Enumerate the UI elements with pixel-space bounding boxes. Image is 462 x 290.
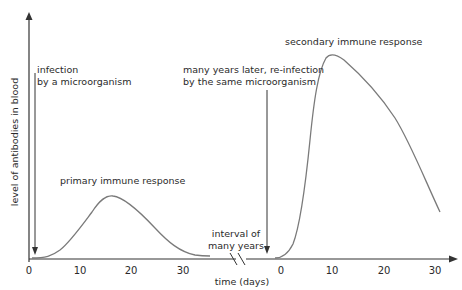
x-axis-label: time (days) — [215, 276, 269, 287]
tick-secondary-20: 20 — [378, 265, 391, 276]
primary-response-label: primary immune response — [60, 175, 186, 186]
secondary-response-label: secondary immune response — [285, 36, 423, 47]
tick-primary-0: 0 — [26, 265, 32, 276]
y-axis-arrow-icon — [26, 12, 33, 20]
axis-break-mark-2 — [238, 253, 245, 265]
tick-secondary-10: 10 — [326, 265, 339, 276]
reinfection-label-line1: many years later, re-infection — [183, 64, 324, 75]
tick-secondary-0: 0 — [278, 265, 284, 276]
reinfection-arrow-icon — [264, 246, 270, 254]
y-axis-label: level of antibodies in blood — [9, 78, 20, 206]
immune-response-chart: 0 10 20 30 0 10 20 30 time (days) level … — [0, 0, 462, 290]
infection-label-line2: by a microorganism — [37, 76, 131, 87]
tick-secondary-30: 30 — [429, 265, 442, 276]
reinfection-label-line2: by the same microorganism — [183, 76, 316, 87]
interval-label-line2: many years — [208, 240, 264, 251]
x-axis-arrow-icon — [449, 256, 458, 263]
tick-primary-20: 20 — [125, 265, 138, 276]
infection-arrow-icon — [32, 247, 38, 255]
tick-primary-30: 30 — [177, 265, 190, 276]
infection-label-line1: infection — [37, 64, 78, 75]
tick-primary-10: 10 — [74, 265, 87, 276]
primary-response-curve — [32, 196, 210, 258]
interval-label-line1: interval of — [212, 228, 261, 239]
